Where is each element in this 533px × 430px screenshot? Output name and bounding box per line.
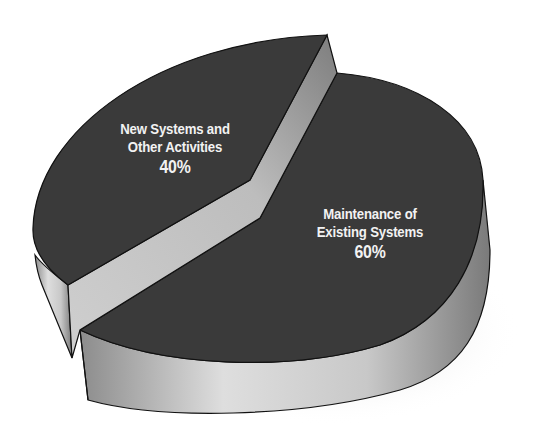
slice-label-maintenance: Maintenance of Existing Systems 60% — [275, 205, 465, 264]
slice-label-new-systems: New Systems and Other Activities 40% — [85, 120, 265, 179]
slice-label-line: New Systems and — [96, 120, 254, 138]
slice-label-line: Existing Systems — [286, 223, 453, 241]
slice-percent-label: 40% — [96, 157, 254, 179]
slice-label-line: Maintenance of — [286, 205, 453, 223]
pie-chart: New Systems and Other Activities 40% Mai… — [0, 0, 533, 430]
slice-label-line: Other Activities — [96, 138, 254, 156]
slice-percent-label: 60% — [286, 242, 453, 264]
